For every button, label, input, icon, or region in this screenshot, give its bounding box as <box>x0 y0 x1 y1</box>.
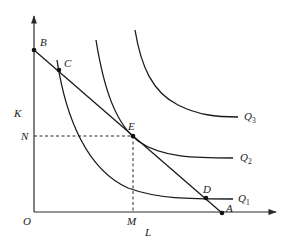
label-e: E <box>127 120 135 132</box>
isoquant-diagram: B C E D A K L O N M Q1 Q2 Q3 <box>0 0 290 249</box>
isoquant-q1 <box>57 60 233 199</box>
label-d: D <box>202 183 211 195</box>
m-label: M <box>126 215 137 227</box>
label-a: A <box>225 202 233 214</box>
x-axis-label: L <box>144 226 151 238</box>
q3-label: Q3 <box>244 110 256 125</box>
point-b <box>32 48 37 53</box>
point-e <box>131 134 136 139</box>
q1-label: Q1 <box>238 192 250 207</box>
point-d <box>204 196 209 201</box>
q2-label: Q2 <box>240 151 252 166</box>
y-axis-label: K <box>13 107 22 119</box>
label-c: C <box>64 57 72 69</box>
isoquant-q2 <box>96 40 233 158</box>
point-a <box>220 211 225 216</box>
isoquant-q3 <box>135 30 238 117</box>
point-c <box>57 68 62 73</box>
origin-label: O <box>23 215 31 227</box>
label-b: B <box>40 36 47 48</box>
n-label: N <box>20 130 29 142</box>
